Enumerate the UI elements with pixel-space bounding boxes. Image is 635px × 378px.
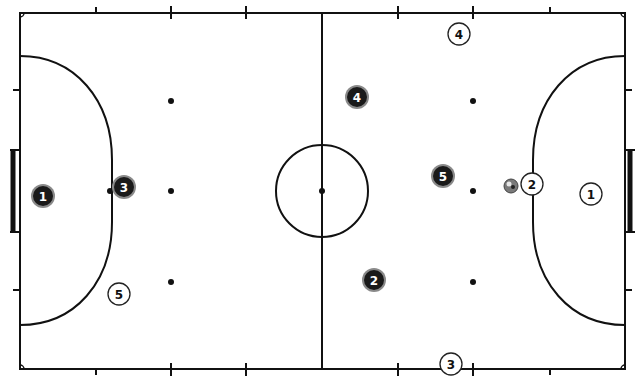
ball-icon[interactable] [504, 179, 518, 193]
right-upper-spot [470, 98, 476, 104]
dark-player-marker[interactable]: 2 [362, 268, 386, 292]
futsal-court: 1345242153 [0, 0, 635, 378]
player-number: 4 [353, 91, 361, 105]
right-second-spot [470, 188, 476, 194]
light-player-marker[interactable]: 2 [521, 173, 543, 195]
player-number: 1 [587, 188, 595, 202]
left-lower-spot [168, 279, 174, 285]
player-number: 2 [370, 274, 378, 288]
player-number: 5 [115, 288, 123, 302]
dark-player-marker[interactable]: 5 [431, 164, 455, 188]
player-number: 3 [120, 181, 128, 195]
left-second-spot [168, 188, 174, 194]
center-spot [319, 188, 325, 194]
dark-player-marker[interactable]: 3 [112, 175, 136, 199]
player-number: 4 [455, 28, 463, 42]
player-number: 3 [447, 358, 455, 372]
left-upper-spot [168, 98, 174, 104]
right-penalty-area [533, 56, 625, 325]
player-number: 5 [439, 170, 447, 184]
left-penalty-spot [107, 188, 113, 194]
light-player-marker[interactable]: 1 [580, 183, 602, 205]
player-number: 2 [528, 178, 536, 192]
right-lower-spot [470, 279, 476, 285]
light-player-marker[interactable]: 5 [108, 283, 130, 305]
light-player-marker[interactable]: 3 [440, 353, 462, 375]
player-number: 1 [39, 190, 47, 204]
dark-player-marker[interactable]: 4 [345, 85, 369, 109]
court-marks [107, 98, 476, 285]
dark-player-marker[interactable]: 1 [31, 184, 55, 208]
light-player-marker[interactable]: 4 [448, 23, 470, 45]
players-layer: 1345242153 [31, 23, 602, 375]
